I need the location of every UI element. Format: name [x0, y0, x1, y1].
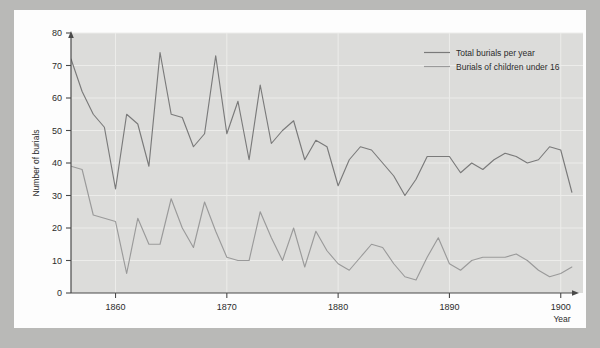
y-tick-label: 0 — [57, 288, 62, 298]
x-tick-label: 1870 — [217, 302, 237, 312]
legend-label-children: Burials of children under 16 — [456, 62, 560, 72]
y-tick-label: 60 — [52, 93, 62, 103]
y-tick-label: 30 — [52, 191, 62, 201]
legend-label-total: Total burials per year — [456, 48, 535, 58]
x-axis-title: Year — [553, 314, 570, 324]
y-tick-label: 10 — [52, 256, 62, 266]
x-tick-label: 1860 — [106, 302, 126, 312]
x-axis-ticks: 18601870188018901900 — [106, 293, 571, 312]
x-tick-label: 1890 — [439, 302, 459, 312]
y-tick-label: 70 — [52, 61, 62, 71]
y-tick-label: 40 — [52, 158, 62, 168]
y-tick-label: 80 — [52, 28, 62, 38]
y-tick-label: 20 — [52, 223, 62, 233]
y-axis-title: Number of burials — [31, 129, 41, 196]
x-tick-label: 1880 — [328, 302, 348, 312]
x-tick-label: 1900 — [551, 302, 571, 312]
line-chart: 01020304050607080 18601870188018901900 N… — [0, 0, 600, 348]
screenshot-root: 01020304050607080 18601870188018901900 N… — [0, 0, 600, 348]
y-tick-label: 50 — [52, 126, 62, 136]
y-axis-ticks: 01020304050607080 — [52, 28, 71, 298]
